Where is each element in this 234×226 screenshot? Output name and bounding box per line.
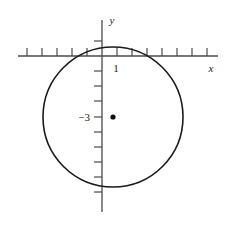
y-axis-ticks	[94, 41, 102, 192]
x-tick-label-1: 1	[113, 62, 119, 74]
figure-container: x y 1 −3	[0, 0, 234, 226]
circle-center-point	[110, 114, 115, 119]
plot-canvas: x y 1 −3	[0, 0, 234, 226]
y-tick-label-minus-3: −3	[78, 111, 90, 123]
x-axis-label: x	[208, 62, 214, 74]
y-axis-label: y	[109, 14, 115, 26]
x-axis-ticks	[27, 48, 207, 56]
